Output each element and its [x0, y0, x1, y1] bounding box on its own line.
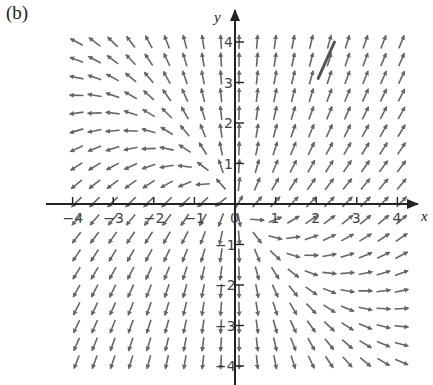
field-arrow — [126, 214, 135, 225]
field-arrow — [254, 178, 259, 191]
field-arrow — [201, 107, 205, 120]
field-arrow — [361, 197, 371, 207]
field-arrow — [292, 71, 295, 84]
field-arrow — [144, 197, 154, 207]
field-arrow — [124, 111, 137, 115]
field-arrow — [377, 325, 390, 328]
field-arrow — [256, 284, 259, 297]
field-arrow — [201, 249, 205, 262]
field-arrow — [307, 304, 316, 314]
field-arrow — [398, 125, 405, 137]
x-tick-label: 0 — [230, 210, 239, 226]
field-arrow — [323, 288, 336, 293]
field-arrow — [70, 57, 83, 62]
field-arrow — [380, 107, 386, 119]
field-arrow — [220, 142, 223, 155]
field-arrow — [343, 179, 352, 190]
field-arrow — [274, 53, 276, 67]
field-arrow — [90, 215, 99, 225]
field-arrow — [239, 142, 240, 156]
field-arrow — [238, 231, 239, 245]
field-arrow — [196, 184, 210, 185]
y-tick-label: 2 — [224, 115, 233, 131]
x-tick-label: −2 — [144, 210, 165, 226]
field-arrow — [89, 163, 101, 170]
field-arrow — [344, 161, 352, 172]
field-arrow — [290, 160, 296, 172]
field-arrow — [126, 55, 135, 65]
field-arrow — [146, 284, 151, 297]
field-arrow — [110, 320, 115, 333]
field-arrow — [184, 355, 186, 369]
field-arrow — [395, 359, 408, 364]
field-arrow — [362, 143, 369, 155]
field-arrow — [288, 269, 299, 278]
field-arrow — [291, 355, 295, 368]
field-arrow — [255, 266, 259, 279]
field-arrow — [126, 197, 136, 207]
field-arrow — [74, 320, 80, 332]
field-arrow — [147, 338, 151, 351]
field-arrow — [198, 197, 208, 206]
field-arrow — [88, 75, 101, 80]
field-arrow — [92, 320, 97, 333]
field-arrow — [310, 35, 313, 48]
field-arrow — [70, 76, 84, 79]
field-arrow — [398, 89, 404, 101]
field-arrow — [378, 215, 389, 224]
field-arrow — [324, 216, 335, 224]
field-arrow — [327, 89, 332, 102]
field-arrow — [199, 143, 206, 155]
field-arrow — [289, 178, 297, 189]
field-arrow — [325, 339, 334, 350]
field-arrow — [145, 54, 153, 65]
field-arrow — [221, 337, 222, 351]
field-arrow — [200, 125, 205, 138]
field-arrow — [309, 125, 314, 138]
field-arrow — [202, 53, 204, 67]
field-arrow — [359, 324, 372, 329]
field-arrow — [377, 308, 391, 309]
field-arrow — [381, 53, 386, 66]
field-arrow — [380, 125, 387, 137]
field-arrow — [268, 236, 281, 239]
field-arrow — [180, 197, 190, 206]
field-arrow — [256, 355, 257, 369]
y-axis-label: y — [212, 9, 221, 25]
field-arrow — [308, 356, 314, 368]
field-arrow — [250, 219, 264, 220]
field-arrow — [202, 302, 204, 316]
field-arrow — [256, 142, 259, 155]
field-arrow — [377, 252, 389, 258]
solution-curve-segment — [318, 42, 334, 78]
field-arrow — [142, 129, 155, 133]
field-arrow — [272, 178, 279, 190]
field-arrow — [273, 124, 277, 137]
field-arrow — [274, 337, 277, 350]
field-arrow — [128, 320, 133, 333]
field-arrow — [286, 237, 300, 239]
field-arrow — [308, 142, 314, 154]
field-arrow — [399, 53, 404, 66]
field-arrow — [197, 162, 208, 170]
field-arrow — [326, 161, 333, 173]
field-arrow — [74, 302, 80, 314]
field-arrow — [202, 320, 204, 334]
field-arrow — [359, 341, 371, 348]
x-tick-label: 1 — [271, 210, 280, 226]
field-arrow — [202, 71, 205, 84]
field-arrow — [341, 253, 354, 257]
field-arrow — [274, 106, 277, 119]
field-arrow — [183, 267, 187, 280]
field-arrow — [399, 71, 405, 83]
field-arrow — [107, 74, 119, 81]
field-arrow — [377, 290, 391, 292]
field-arrow — [164, 249, 170, 261]
field-arrow — [162, 197, 172, 207]
field-arrow — [255, 249, 260, 262]
x-tick-label: 2 — [311, 210, 320, 226]
field-arrow — [200, 231, 205, 244]
x-tick-label: −3 — [103, 210, 124, 226]
field-arrow — [273, 142, 277, 155]
field-arrow — [161, 181, 173, 188]
